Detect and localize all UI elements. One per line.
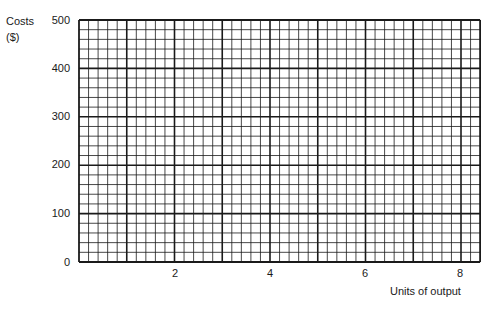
- graph-paper-grid: [0, 0, 494, 309]
